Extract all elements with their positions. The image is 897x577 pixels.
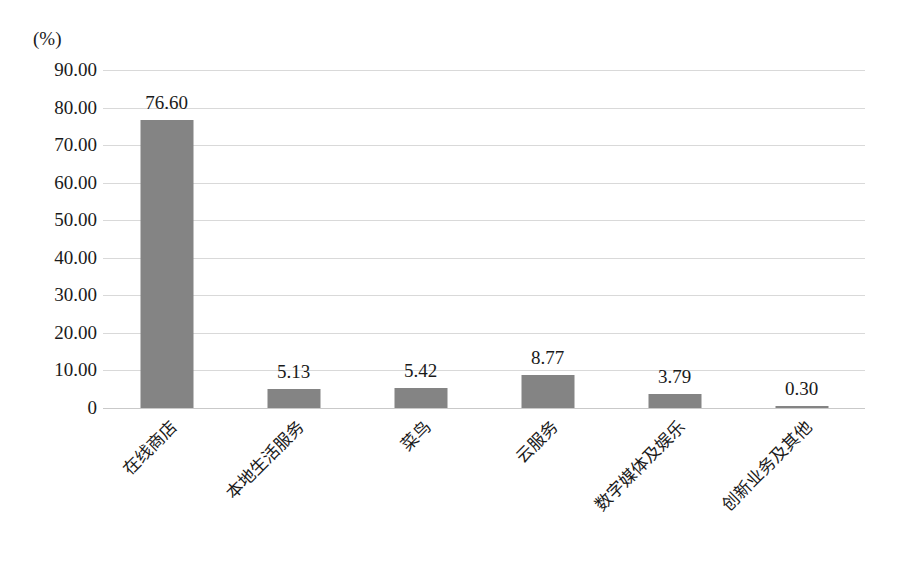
x-label-slot: 云服务 bbox=[484, 412, 611, 572]
x-axis-category-label: 菜鸟 bbox=[398, 418, 435, 455]
y-axis-tick-label: 20.00 bbox=[25, 323, 97, 342]
y-axis-tick-label: 70.00 bbox=[25, 135, 97, 154]
x-label-slot: 在线商店 bbox=[103, 412, 230, 572]
x-axis-category-label: 在线商店 bbox=[120, 418, 181, 479]
bar[interactable] bbox=[648, 394, 701, 408]
y-axis-tick-label: 90.00 bbox=[25, 60, 97, 79]
x-label-slot: 菜鸟 bbox=[357, 412, 484, 572]
bar-group: 76.60 bbox=[103, 70, 230, 408]
bar[interactable] bbox=[394, 388, 447, 408]
y-axis-tick-labels: 90.0080.0070.0060.0050.0040.0030.0020.00… bbox=[23, 70, 97, 408]
x-label-slot: 本地生活服务 bbox=[230, 412, 357, 572]
x-label-slot: 数字媒体及娱乐 bbox=[611, 412, 738, 572]
y-axis-tick-label: 60.00 bbox=[25, 173, 97, 192]
bar[interactable] bbox=[140, 120, 193, 408]
y-axis-tick-label: 50.00 bbox=[25, 210, 97, 229]
y-axis-tick-label: 30.00 bbox=[25, 285, 97, 304]
x-axis-category-label: 本地生活服务 bbox=[223, 418, 308, 503]
bar-value-label: 0.30 bbox=[785, 379, 818, 398]
x-axis-category-label: 云服务 bbox=[513, 418, 562, 467]
bar-chart: (%) 90.0080.0070.0060.0050.0040.0030.002… bbox=[0, 0, 897, 577]
bars-layer: 76.605.135.428.773.790.30 bbox=[103, 70, 865, 408]
y-axis-tick-label: 10.00 bbox=[25, 360, 97, 379]
bar-value-label: 76.60 bbox=[145, 93, 188, 112]
bar-value-label: 5.42 bbox=[404, 361, 437, 380]
bar-group: 0.30 bbox=[738, 70, 865, 408]
bar-group: 5.13 bbox=[230, 70, 357, 408]
y-axis-unit-label: (%) bbox=[33, 29, 61, 48]
y-axis-tick-label: 0 bbox=[25, 398, 97, 417]
y-axis-tick-label: 40.00 bbox=[25, 248, 97, 267]
gridline bbox=[103, 408, 865, 409]
bar-group: 8.77 bbox=[484, 70, 611, 408]
bar[interactable] bbox=[267, 389, 320, 408]
bar-value-label: 8.77 bbox=[531, 348, 564, 367]
bar-value-label: 3.79 bbox=[658, 367, 691, 386]
y-axis-tick-label: 80.00 bbox=[25, 98, 97, 117]
x-label-slot: 创新业务及其他 bbox=[738, 412, 865, 572]
bar-group: 5.42 bbox=[357, 70, 484, 408]
bar[interactable] bbox=[521, 375, 574, 408]
bar[interactable] bbox=[775, 406, 828, 408]
bar-value-label: 5.13 bbox=[277, 362, 310, 381]
plot-area: 76.605.135.428.773.790.30 bbox=[103, 70, 865, 408]
x-axis-category-labels: 在线商店本地生活服务菜鸟云服务数字媒体及娱乐创新业务及其他 bbox=[103, 412, 865, 572]
bar-group: 3.79 bbox=[611, 70, 738, 408]
